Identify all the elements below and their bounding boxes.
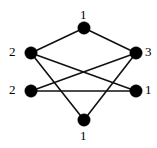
graph-vertex [25,47,37,59]
graph-edge [84,28,136,53]
graph-vertex [130,85,142,97]
graph-edge [31,28,84,53]
graph-vertex [130,47,142,59]
vertex-label-bottom: 1 [80,129,87,142]
graph-vertex [25,85,37,97]
vertex-label-top: 1 [80,8,87,21]
graph-vertex [78,22,90,34]
graph-canvas [0,0,157,148]
vertex-label-lower-left: 2 [9,83,16,96]
graph-diagram: 123211 [0,0,157,148]
vertex-label-lower-right: 1 [145,83,152,96]
vertex-label-upper-left: 2 [9,45,16,58]
vertex-label-upper-right: 3 [145,45,152,58]
graph-vertex [78,114,90,126]
edge-layer [31,28,136,120]
vertex-layer [25,22,142,126]
